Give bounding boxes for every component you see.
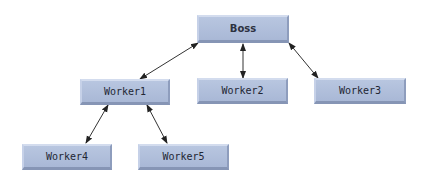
node-label: Worker1 (104, 86, 146, 97)
node-label: Worker4 (46, 151, 88, 162)
node-worker1: Worker1 (80, 79, 170, 105)
node-label: Boss (230, 23, 256, 34)
edge-boss-worker1 (140, 43, 198, 79)
edge-worker1-worker5 (147, 105, 167, 143)
node-label: Worker3 (339, 85, 381, 96)
node-worker4: Worker4 (22, 144, 112, 170)
node-worker2: Worker2 (197, 78, 288, 104)
edge-boss-worker3 (289, 43, 318, 78)
node-label: Worker2 (221, 85, 263, 96)
node-worker5: Worker5 (138, 144, 229, 170)
node-boss: Boss (197, 15, 289, 43)
edge-worker1-worker4 (86, 105, 108, 143)
node-label: Worker5 (162, 151, 204, 162)
node-worker3: Worker3 (314, 78, 406, 104)
